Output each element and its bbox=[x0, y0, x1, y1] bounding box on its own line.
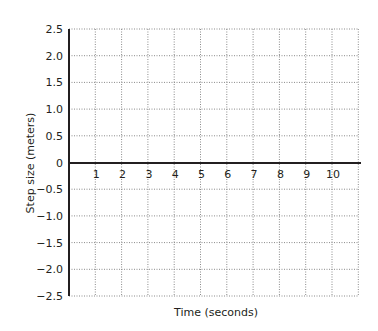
x-tick-label: 5 bbox=[198, 168, 205, 181]
y-tick-label: −0.5 bbox=[36, 183, 63, 196]
x-tick-label: 10 bbox=[326, 168, 340, 181]
y-tick-label: −2.0 bbox=[36, 263, 63, 276]
y-tick-label: 2.5 bbox=[46, 23, 64, 36]
y-tick-label: 0 bbox=[56, 157, 63, 170]
x-tick-label: 7 bbox=[251, 168, 258, 181]
x-tick-label: 9 bbox=[303, 168, 310, 181]
y-tick-label: 1.0 bbox=[46, 103, 64, 116]
y-tick-labels: 2.52.01.51.00.50−0.5−1.0−1.5−2.0−2.5 bbox=[36, 23, 63, 303]
y-tick-label: −2.5 bbox=[36, 290, 63, 303]
axes bbox=[69, 29, 361, 296]
x-tick-labels: 12345678910 bbox=[93, 168, 340, 181]
x-tick-label: 8 bbox=[277, 168, 284, 181]
x-tick-label: 1 bbox=[93, 168, 100, 181]
y-axis-label: Step size (meters) bbox=[24, 113, 37, 214]
y-tick-label: 0.5 bbox=[46, 130, 64, 143]
y-tick-label: −1.0 bbox=[36, 210, 63, 223]
y-tick-label: 1.5 bbox=[46, 76, 64, 89]
x-tick-label: 3 bbox=[145, 168, 152, 181]
x-tick-label: 2 bbox=[119, 168, 126, 181]
step-size-chart: 2.52.01.51.00.50−0.5−1.0−1.5−2.0−2.5 123… bbox=[0, 0, 378, 331]
x-axis-label: Time (seconds) bbox=[173, 306, 258, 319]
x-tick-label: 4 bbox=[172, 168, 179, 181]
y-tick-label: −1.5 bbox=[36, 237, 63, 250]
y-tick-label: 2.0 bbox=[46, 50, 64, 63]
x-tick-label: 6 bbox=[224, 168, 231, 181]
